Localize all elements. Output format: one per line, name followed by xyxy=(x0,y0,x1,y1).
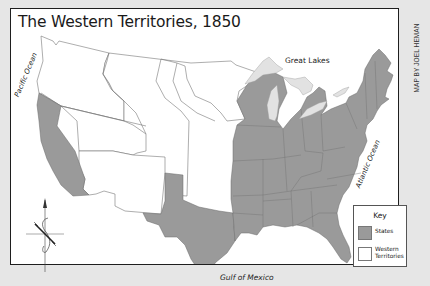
credit-text: MAP BY JOEL HEMAN xyxy=(413,23,420,92)
map-legend: Key States Western Territories xyxy=(353,205,407,267)
states-swatch xyxy=(358,226,372,240)
gulf-of-mexico-label: Gulf of Mexico xyxy=(220,273,274,282)
legend-label-western-territories: Western Territories xyxy=(375,246,407,260)
map-frame: The Western Territories, 1850 xyxy=(10,8,399,265)
western-territories-swatch xyxy=(358,247,372,261)
map-title: The Western Territories, 1850 xyxy=(18,13,241,31)
map-credit: MAP BY JOEL HEMAN xyxy=(409,8,423,108)
compass-rose-icon xyxy=(22,196,68,276)
legend-title: Key xyxy=(354,211,406,220)
great-lakes-label: Great Lakes xyxy=(285,56,330,65)
map-graphic xyxy=(11,9,399,265)
legend-label-states: States xyxy=(375,228,393,235)
